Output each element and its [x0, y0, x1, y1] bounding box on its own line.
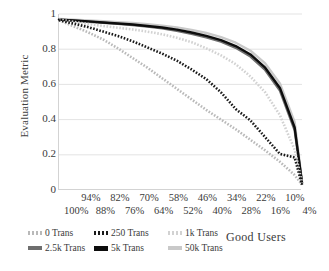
series-line-250-trans — [59, 20, 302, 185]
chart-legend: 0 Trans 250 Trans 1k Trans 2.5k Trans 5k… — [28, 228, 228, 258]
x-tick-88: 88% — [96, 205, 115, 216]
y-tick-0: 0 — [51, 184, 57, 195]
y-tick-0.6: 0.6 — [42, 78, 56, 89]
data-series-layer — [59, 19, 302, 185]
legend-marker-250-trans-icon — [94, 231, 108, 235]
x-tick-46: 46% — [198, 192, 217, 203]
x-axis-tick-row-top: 94% 82% 70% 58% 46% 34% 22% 10% — [58, 192, 301, 204]
legend-item-50k-trans[interactable]: 50k Trans — [168, 243, 223, 253]
plot-svg — [59, 14, 302, 190]
series-line-2-5k-trans — [59, 20, 302, 183]
x-tick-28: 28% — [242, 205, 261, 216]
x-tick-64: 64% — [154, 205, 173, 216]
evaluation-metric-line-chart: Evaluation Metric 1 0.8 0.6 0.4 0.2 0 94… — [0, 0, 329, 271]
x-tick-40: 40% — [212, 205, 231, 216]
legend-marker-5k-trans-icon — [94, 246, 108, 251]
legend-item-250-trans[interactable]: 250 Trans — [94, 228, 149, 238]
x-tick-82: 82% — [110, 192, 129, 203]
legend-item-5k-trans[interactable]: 5k Trans — [94, 243, 144, 253]
legend-label-1k-trans: 1k Trans — [185, 228, 218, 238]
y-axis-tick-labels: 1 0.8 0.6 0.4 0.2 0 — [34, 0, 56, 200]
legend-item-2-5k-trans[interactable]: 2.5k Trans — [28, 243, 85, 253]
x-tick-22: 22% — [256, 192, 275, 203]
y-tick-0.4: 0.4 — [42, 113, 56, 124]
x-tick-4: 4% — [303, 205, 317, 216]
legend-item-1k-trans[interactable]: 1k Trans — [168, 228, 218, 238]
x-tick-10: 10% — [285, 192, 304, 203]
legend-label-50k-trans: 50k Trans — [185, 243, 223, 253]
legend-marker-0-trans-icon — [28, 231, 42, 235]
plot-area — [58, 14, 301, 190]
legend-marker-2-5k-trans-icon — [28, 246, 42, 250]
x-tick-70: 70% — [140, 192, 159, 203]
legend-label-250-trans: 250 Trans — [111, 228, 149, 238]
legend-label-5k-trans: 5k Trans — [111, 243, 144, 253]
x-tick-94: 94% — [81, 192, 100, 203]
series-line-5k-trans — [59, 20, 302, 183]
x-tick-76: 76% — [125, 205, 144, 216]
x-tick-52: 52% — [183, 205, 202, 216]
x-axis-title: Good Users — [226, 230, 286, 245]
x-tick-34: 34% — [227, 192, 246, 203]
y-tick-0.8: 0.8 — [42, 43, 56, 54]
x-tick-16: 16% — [271, 205, 290, 216]
y-tick-0.2: 0.2 — [42, 148, 56, 159]
legend-marker-50k-trans-icon — [168, 246, 182, 250]
x-tick-58: 58% — [169, 192, 188, 203]
legend-item-0-trans[interactable]: 0 Trans — [28, 228, 73, 238]
series-line-1k-trans — [59, 20, 302, 183]
x-axis-tick-row-bottom: 100% 88% 76% 64% 52% 40% 28% 16% 4% — [58, 205, 301, 217]
y-tick-1: 1 — [51, 8, 57, 19]
legend-label-0-trans: 0 Trans — [45, 228, 73, 238]
legend-label-2-5k-trans: 2.5k Trans — [45, 243, 85, 253]
series-line-0-trans — [59, 20, 302, 185]
legend-marker-1k-trans-icon — [168, 231, 182, 235]
series-line-50k-trans — [59, 19, 302, 181]
x-tick-100: 100% — [64, 205, 89, 216]
y-axis-title: Evaluation Metric — [18, 21, 30, 171]
